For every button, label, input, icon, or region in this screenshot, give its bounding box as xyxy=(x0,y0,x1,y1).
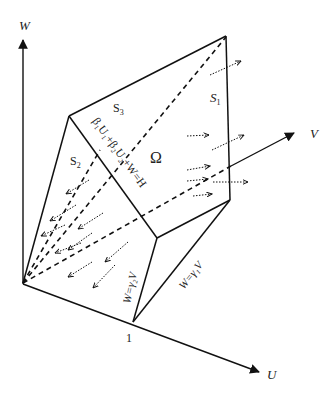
edge-front-right xyxy=(157,200,230,238)
domain-diagram: W V U 1 S1 S2 S3 Ω β₁U₁+β₂U₂+W=H W=γ₂V W… xyxy=(0,0,335,398)
v-axis-solid xyxy=(231,133,294,166)
edge-right-vertical xyxy=(226,36,230,200)
svg-text:S2: S2 xyxy=(70,154,81,170)
svg-text:S1: S1 xyxy=(210,90,221,107)
gamma2-plane-label: W=γ₂V xyxy=(120,270,139,305)
edge-top xyxy=(69,36,226,116)
omega-label: Ω xyxy=(150,149,162,166)
v-axis-label: V xyxy=(310,126,320,141)
u-axis-label: U xyxy=(267,367,278,382)
flow-arrows-right xyxy=(187,61,248,196)
s2-label: S2 xyxy=(70,154,81,170)
edge-left-front xyxy=(23,116,69,283)
s1-label: S1 xyxy=(210,90,221,107)
diagonal-to-front xyxy=(23,150,100,283)
svg-text:S3: S3 xyxy=(113,101,124,117)
edge-gamma1 xyxy=(133,200,230,322)
s3-label: S3 xyxy=(113,101,124,117)
w-axis-label: W xyxy=(19,18,31,33)
top-plane-equation: β₁U₁+β₂U₂+W=H xyxy=(90,115,149,190)
u-axis xyxy=(23,284,259,372)
flow-arrows-left xyxy=(41,180,128,288)
unit-tick-label: 1 xyxy=(126,331,132,345)
